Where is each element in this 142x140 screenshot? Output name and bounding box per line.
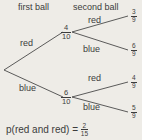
probability-red-first-numerator: 4 <box>61 24 71 32</box>
probability-red-blue-numerator: 6 <box>131 43 137 50</box>
branch-label-blue-blue: blue <box>83 102 100 112</box>
probability-tree-diagram: first ball second ball red blue 4 10 6 1… <box>0 0 142 140</box>
branch-line-root-red <box>4 32 63 70</box>
tree-branch-lines <box>0 0 142 140</box>
branch-label-blue: blue <box>19 83 36 93</box>
probability-blue-red-denominator: 9 <box>131 82 137 90</box>
probability-blue-first: 6 10 <box>61 89 71 106</box>
probability-blue-red: 4 9 <box>131 75 137 89</box>
probability-red-red-denominator: 9 <box>131 16 137 24</box>
header-first-ball: first ball <box>18 2 49 12</box>
probability-red-red-numerator: 3 <box>131 9 137 16</box>
result-equation-text: p(red and red) = <box>6 124 78 135</box>
result-numerator: 2 <box>81 122 88 129</box>
branch-label-blue-red: red <box>88 73 101 83</box>
branch-line-blue-red <box>72 82 128 97</box>
result-equation: p(red and red) = 2 15 <box>6 122 88 137</box>
branch-label-red: red <box>20 38 33 48</box>
probability-blue-blue-numerator: 5 <box>131 105 137 112</box>
probability-blue-first-numerator: 6 <box>61 89 71 97</box>
branch-label-red-red: red <box>88 15 101 25</box>
probability-blue-blue-denominator: 9 <box>131 112 137 120</box>
probability-blue-blue: 5 9 <box>131 105 137 119</box>
probability-red-red: 3 9 <box>131 9 137 23</box>
result-fraction: 2 15 <box>81 122 88 137</box>
probability-red-first-denominator: 10 <box>61 32 71 41</box>
probability-blue-red-numerator: 4 <box>131 75 137 82</box>
probability-red-blue-denominator: 9 <box>131 50 137 58</box>
result-denominator: 15 <box>81 129 88 137</box>
header-second-ball: second ball <box>73 2 119 12</box>
probability-red-blue: 6 9 <box>131 43 137 57</box>
branch-label-red-blue: blue <box>83 44 100 54</box>
probability-blue-first-denominator: 10 <box>61 97 71 106</box>
probability-red-first: 4 10 <box>61 24 71 41</box>
